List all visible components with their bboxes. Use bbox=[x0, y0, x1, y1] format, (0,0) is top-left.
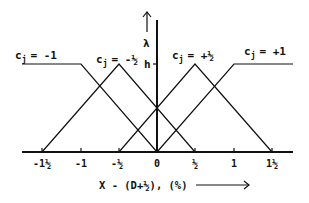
tick-label-neg-1: -1 bbox=[75, 158, 87, 169]
lambda-arrow-icon bbox=[143, 12, 151, 32]
x-axis-label: X - (D+½), (%) bbox=[99, 179, 188, 191]
lambda-label: λ bbox=[143, 37, 150, 50]
curve-label-cj-minus-half: cj= -½ bbox=[96, 53, 138, 68]
tick-label-1-5: 1½ bbox=[266, 158, 278, 169]
curve-label-cj-minus-1: cj= -1 bbox=[15, 49, 57, 64]
x-arrow-icon bbox=[196, 181, 249, 189]
tick-label-0-5: ½ bbox=[192, 158, 198, 169]
tick-label-0: 0 bbox=[154, 158, 160, 169]
h-label: h bbox=[144, 58, 151, 71]
curve-cj-plus-1 bbox=[157, 64, 293, 152]
tick-label-neg-1-5: -1½ bbox=[33, 158, 51, 169]
tick-label-1: 1 bbox=[231, 158, 237, 169]
curve-label-cj-plus-half: cj= +½ bbox=[172, 49, 214, 64]
curve-cj-minus-1 bbox=[22, 64, 157, 152]
curve-label-cj-plus-1: cj= +1 bbox=[244, 45, 286, 60]
membership-diagram: λ h -1½ -1 -½ 0 ½ 1 1½ X - (D+½), (%) cj… bbox=[0, 0, 309, 203]
tick-label-neg-0-5: -½ bbox=[111, 158, 123, 169]
